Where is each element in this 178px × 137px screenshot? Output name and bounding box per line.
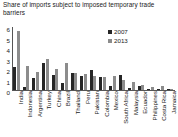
bar-2007 — [128, 88, 131, 90]
bar-group — [13, 27, 23, 90]
bar-2007 — [119, 75, 122, 90]
bar-group — [42, 27, 52, 90]
y-tick-label: 3 — [7, 59, 10, 65]
bar-2007 — [138, 86, 141, 90]
bar-2007 — [32, 78, 35, 90]
x-tick-label: Argentina — [37, 91, 43, 117]
y-tick-label: 0 — [7, 90, 10, 96]
y-tick-label: 2 — [7, 69, 10, 75]
x-tick-label: Peru — [85, 91, 91, 104]
bar-group — [80, 27, 90, 90]
bar-group — [61, 27, 71, 90]
chart-container: Share of imports subject to imposed temp… — [0, 0, 178, 137]
x-tick-label: Colombia — [104, 91, 110, 117]
bar-2013 — [113, 76, 116, 90]
bar-group — [157, 27, 167, 90]
legend-swatch — [108, 39, 112, 43]
x-tick-label: Indonesia — [27, 91, 33, 117]
x-tick-label: Thailand — [75, 91, 81, 114]
bar-group — [52, 27, 62, 90]
x-tick-label: Turkey — [46, 91, 52, 109]
bar-2007 — [13, 67, 16, 90]
bar-group — [128, 27, 138, 90]
legend-swatch — [108, 30, 112, 34]
bar-2007 — [71, 73, 74, 90]
bar-group — [32, 27, 42, 90]
chart-title: Share of imports subject to imposed temp… — [3, 1, 163, 16]
bar-2007 — [80, 76, 83, 90]
legend-item: 2007 — [108, 28, 128, 36]
x-tick-label: China — [56, 91, 62, 107]
bar-2013 — [122, 80, 125, 91]
x-tick-label: Jamaica — [171, 91, 177, 114]
bar-2013 — [151, 87, 154, 90]
x-tick-label: Philippines — [152, 91, 158, 120]
bar-2013 — [36, 72, 39, 90]
legend-label: 2013 — [114, 38, 128, 44]
bar-2007 — [109, 86, 112, 90]
bar-group — [138, 27, 148, 90]
bar-2007 — [99, 77, 102, 90]
bar-group — [167, 27, 177, 90]
bar-2013 — [65, 63, 68, 90]
x-tick-label: Mexico — [113, 91, 119, 110]
bar-2013 — [93, 76, 96, 90]
x-tick-label: Pakistan — [94, 91, 100, 114]
bar-2013 — [46, 59, 49, 91]
bar-2007 — [147, 89, 150, 90]
bar-2007 — [42, 63, 45, 90]
bar-2013 — [132, 82, 135, 90]
bar-2013 — [141, 85, 144, 90]
x-axis-tick-labels: IndiaIndonesiaArgentinaTurkeyChinaBrazil… — [12, 91, 178, 137]
bar-2013 — [103, 77, 106, 90]
x-tick-label: Brazil — [65, 91, 71, 106]
x-tick-label: Costa Rica — [161, 91, 167, 121]
bar-2007 — [23, 87, 26, 90]
plot-area — [12, 27, 175, 90]
x-tick-label: India — [18, 91, 24, 104]
y-axis-tick-labels: 6543210 — [0, 24, 11, 94]
y-tick-label: 1 — [7, 80, 10, 86]
bar-2013 — [55, 69, 58, 90]
bar-group — [71, 27, 81, 90]
y-tick-label: 5 — [7, 38, 10, 44]
bar-group — [90, 27, 100, 90]
legend-label: 2007 — [114, 29, 128, 35]
bar-2007 — [61, 83, 64, 90]
bar-2007 — [90, 70, 93, 90]
bar-group — [23, 27, 33, 90]
bar-2013 — [161, 86, 164, 90]
bar-2013 — [84, 74, 87, 90]
y-tick-label: 6 — [7, 27, 10, 33]
bar-2013 — [26, 66, 29, 90]
y-tick-label: 4 — [7, 48, 10, 54]
legend-item: 2013 — [108, 37, 128, 45]
chart-legend: 20072013 — [108, 28, 128, 46]
x-tick-label: Malaysia — [133, 91, 139, 115]
bar-2007 — [52, 75, 55, 90]
bar-2013 — [17, 31, 20, 90]
x-tick-label: South Africa — [123, 91, 129, 124]
x-tick-label: Ecuador — [142, 91, 148, 114]
bar-group — [147, 27, 157, 90]
bar-2013 — [74, 73, 77, 90]
